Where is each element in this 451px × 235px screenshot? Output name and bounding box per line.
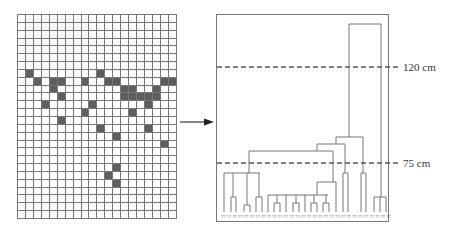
leaf-label: ??: [352, 214, 357, 219]
leaf-label: ??: [238, 214, 243, 219]
leaf-label: ??: [358, 214, 363, 219]
threshold-label: 75 cm: [403, 157, 431, 169]
leaf-label: ??: [312, 214, 317, 219]
dendrogram-panel: 120 cm75 cm ????????????????????????????…: [0, 0, 451, 235]
leaf-label: ??: [301, 214, 306, 219]
leaf-label: ??: [364, 214, 369, 219]
leaf-label: ??: [386, 214, 391, 219]
leaf-label: ??: [329, 214, 334, 219]
leaf-label: ??: [227, 214, 232, 219]
leaf-label: ??: [272, 214, 277, 219]
leaf-label: ??: [244, 214, 249, 219]
leaf-label: ??: [375, 214, 380, 219]
leaf-label: ??: [267, 214, 272, 219]
leaf-label: ??: [250, 214, 255, 219]
leaf-label: ??: [318, 214, 323, 219]
leaf-label: ??: [346, 214, 351, 219]
leaf-label: ??: [221, 214, 226, 219]
leaf-label: ??: [369, 214, 374, 219]
threshold-label: 120 cm: [403, 61, 436, 73]
threshold-lines: 120 cm75 cm: [217, 61, 436, 169]
leaf-label: ??: [255, 214, 260, 219]
leaf-label: ??: [335, 214, 340, 219]
leaf-label: ??: [295, 214, 300, 219]
leaf-label: ??: [341, 214, 346, 219]
leaf-label: ??: [278, 214, 283, 219]
leaf-label: ??: [381, 214, 386, 219]
leaf-labels: ????????????????????????????????????????…: [221, 214, 392, 219]
leaf-label: ??: [232, 214, 237, 219]
dendrogram-frame: [217, 15, 389, 222]
leaf-label: ??: [324, 214, 329, 219]
leaf-label: ??: [307, 214, 312, 219]
leaf-label: ??: [284, 214, 289, 219]
dendrogram-tree: [224, 24, 386, 212]
leaf-label: ??: [289, 214, 294, 219]
leaf-label: ??: [261, 214, 266, 219]
